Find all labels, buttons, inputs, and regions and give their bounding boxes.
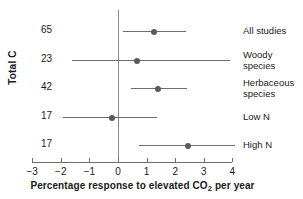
plot-row: 23Woody species bbox=[0, 48, 303, 74]
x-axis-tick-label: −3 bbox=[20, 166, 44, 177]
forest-plot-figure: Total C 65All studies23Woody species42He… bbox=[0, 0, 303, 199]
x-axis-title-post: per year bbox=[212, 180, 255, 191]
data-point-marker bbox=[109, 115, 115, 121]
row-sample-size: 42 bbox=[22, 81, 52, 92]
x-axis-tick bbox=[232, 158, 233, 162]
x-axis-tick bbox=[118, 158, 119, 162]
x-axis-tick bbox=[204, 158, 205, 162]
x-axis-tick-label: −2 bbox=[49, 166, 73, 177]
x-axis-tick bbox=[175, 158, 176, 162]
x-axis-tick bbox=[147, 158, 148, 162]
category-label: Woody species bbox=[243, 49, 275, 71]
plot-row: 17Low N bbox=[0, 105, 303, 131]
plot-row: 65All studies bbox=[0, 19, 303, 45]
x-axis-title-subscript: 2 bbox=[208, 184, 212, 193]
x-axis-title: Percentage response to elevated CO2 per … bbox=[0, 180, 285, 191]
x-axis-title-pre: Percentage response to elevated CO bbox=[30, 180, 207, 191]
x-axis-tick-label: 4 bbox=[220, 166, 244, 177]
row-sample-size: 23 bbox=[22, 53, 52, 64]
category-label: Herbaceous species bbox=[243, 77, 294, 99]
x-axis-tick-label: −1 bbox=[77, 166, 101, 177]
data-point-marker bbox=[134, 58, 140, 64]
x-axis-tick-label: 3 bbox=[192, 166, 216, 177]
category-label: Low N bbox=[243, 111, 270, 122]
plot-row: 17High N bbox=[0, 133, 303, 159]
x-axis-tick-label: 0 bbox=[106, 166, 130, 177]
x-axis-tick bbox=[61, 158, 62, 162]
data-point-marker bbox=[151, 29, 157, 35]
plot-row: 42Herbaceous species bbox=[0, 76, 303, 102]
category-label: All studies bbox=[243, 25, 286, 36]
row-sample-size: 65 bbox=[22, 24, 52, 35]
data-point-marker bbox=[185, 143, 191, 149]
x-axis-line bbox=[32, 162, 232, 163]
x-axis-tick-label: 1 bbox=[135, 166, 159, 177]
category-label: High N bbox=[243, 139, 272, 150]
x-axis-tick bbox=[89, 158, 90, 162]
row-sample-size: 17 bbox=[22, 110, 52, 121]
x-axis-tick bbox=[32, 158, 33, 162]
data-point-marker bbox=[155, 86, 161, 92]
row-sample-size: 17 bbox=[22, 138, 52, 149]
confidence-interval-line bbox=[72, 60, 231, 61]
x-axis-tick-label: 2 bbox=[163, 166, 187, 177]
